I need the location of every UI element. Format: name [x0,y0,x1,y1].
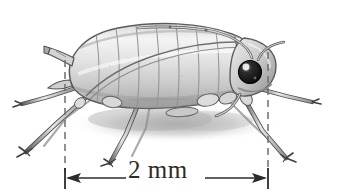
foreleg-front [256,88,321,104]
aphid-figure: 2 mm [0,0,341,191]
compound-eye [239,61,262,84]
cornicle [44,46,74,66]
rear-leg-left [13,88,76,107]
scale-bar-label: 2 mm [128,156,188,184]
cauda [48,80,72,89]
